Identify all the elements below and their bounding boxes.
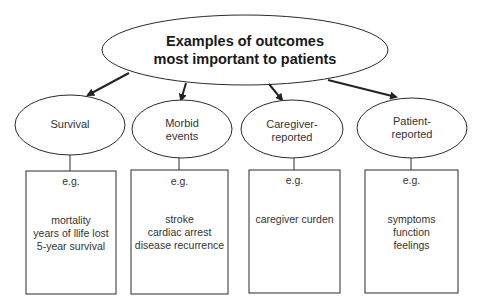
eg-morbid: e.g. bbox=[131, 175, 228, 188]
node-patient-label-line2: reported bbox=[357, 128, 467, 141]
example-item: function bbox=[365, 226, 458, 239]
node-caregiver-label-line2: reported bbox=[241, 131, 343, 144]
node-caregiver-label-line1: Caregiver- bbox=[241, 118, 343, 131]
examples-caregiver: caregiver curden bbox=[249, 213, 340, 226]
node-patient-label-line1: Patient- bbox=[357, 115, 467, 128]
example-item: mortality bbox=[26, 214, 116, 227]
node-morbid-label-line1: Morbid bbox=[132, 117, 232, 130]
node-morbid-label: Morbid events bbox=[132, 117, 232, 143]
arrow-caregiver bbox=[269, 84, 282, 100]
arrow-patient bbox=[328, 80, 396, 97]
node-survival-label-line1: Survival bbox=[15, 118, 125, 131]
arrow-morbid bbox=[181, 83, 186, 100]
examples-morbid: stroke cardiac arrest disease recurrence bbox=[131, 213, 228, 252]
example-item: feelings bbox=[365, 239, 458, 252]
arrow-survival bbox=[88, 73, 129, 95]
example-item: 5-year survival bbox=[26, 240, 116, 253]
example-item: years of llife lost bbox=[26, 227, 116, 240]
root-title-line2: most important to patients bbox=[102, 50, 388, 68]
root-title-line1: Examples of outcomes bbox=[102, 32, 388, 50]
node-survival-label: Survival bbox=[15, 118, 125, 131]
examples-survival: mortality years of llife lost 5-year sur… bbox=[26, 214, 116, 253]
eg-survival: e.g. bbox=[26, 175, 116, 188]
example-item: caregiver curden bbox=[249, 213, 340, 226]
example-item: symptoms bbox=[365, 213, 458, 226]
example-item: cardiac arrest bbox=[131, 226, 228, 239]
box-caregiver bbox=[249, 170, 340, 293]
node-caregiver-label: Caregiver- reported bbox=[241, 118, 343, 144]
eg-patient: e.g. bbox=[365, 174, 458, 187]
example-item: disease recurrence bbox=[131, 239, 228, 252]
node-morbid-label-line2: events bbox=[132, 130, 232, 143]
examples-patient: symptoms function feelings bbox=[365, 213, 458, 252]
root-title: Examples of outcomes most important to p… bbox=[102, 32, 388, 68]
node-patient-label: Patient- reported bbox=[357, 115, 467, 141]
example-item: stroke bbox=[131, 213, 228, 226]
eg-caregiver: e.g. bbox=[249, 174, 340, 187]
